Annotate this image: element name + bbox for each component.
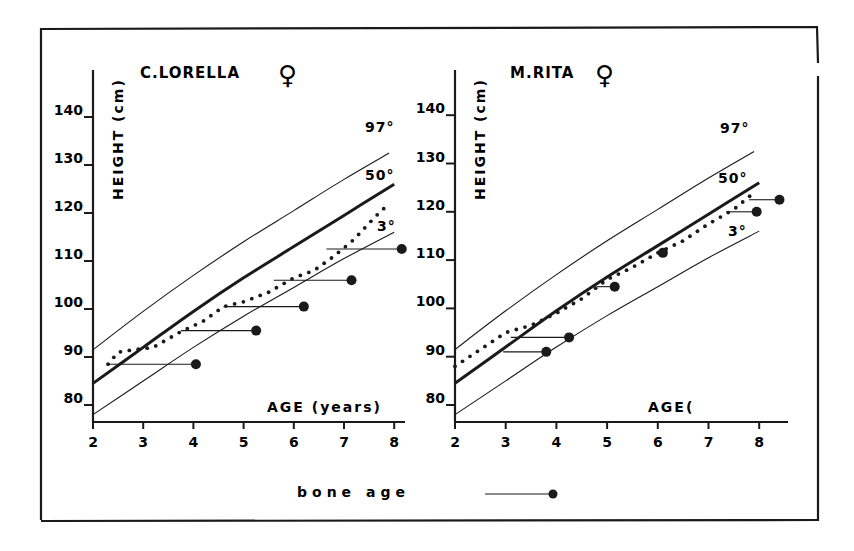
patient-height-dot	[711, 220, 715, 224]
bone-age-dot-icon	[251, 326, 261, 336]
patient-height-dot	[194, 323, 198, 327]
patient-height-dot	[330, 256, 334, 260]
chart-title: M.RITA	[510, 64, 574, 82]
y-tick-label: 80	[426, 390, 446, 406]
x-tick-label: 4	[552, 434, 562, 450]
patient-height-dot	[748, 194, 752, 198]
bone-age-marker	[108, 359, 201, 369]
patient-height-dot	[506, 330, 510, 334]
y-tick-label: 120	[416, 197, 445, 213]
patient-height-dot	[267, 290, 271, 294]
plot-area: 8090100110120130140234567897°50°3°	[54, 70, 407, 450]
x-tick-label: 8	[389, 434, 399, 450]
patient-height-dot	[307, 271, 311, 275]
bone-age-marker	[726, 207, 761, 217]
patient-height-dot	[154, 344, 158, 348]
patient-height-dot	[202, 319, 206, 323]
patient-height-dot	[491, 339, 495, 343]
patient-height-dot	[337, 251, 341, 255]
x-tick-label: 6	[289, 434, 299, 450]
3rd-percentile-curve	[455, 231, 759, 415]
patient-height-dot	[648, 255, 652, 259]
patient-height-dot	[375, 213, 379, 217]
x-axis-label: AGE(	[648, 399, 694, 415]
y-tick-label: 90	[64, 342, 84, 358]
x-axis-label: AGE (years)	[267, 399, 382, 415]
patient-height-dot	[556, 311, 560, 315]
percentile-label: 50°	[718, 170, 747, 186]
patient-height-dot	[523, 325, 527, 329]
patient-height-dot	[572, 302, 576, 306]
patient-height-dot	[298, 274, 302, 278]
legend-label-bone-age: bone age	[297, 484, 410, 500]
patient-height-dot	[453, 364, 457, 368]
patient-height-dot	[594, 286, 598, 290]
patient-height-dot	[250, 297, 254, 301]
patient-height-dot	[136, 347, 140, 351]
chart-title: C.LORELLA	[140, 64, 240, 82]
patient-height-dot	[587, 292, 591, 296]
bone-age-marker	[181, 326, 261, 336]
50th-percentile-curve	[455, 183, 759, 383]
patient-height-dot	[548, 315, 552, 319]
patient-height-dot	[343, 245, 347, 249]
patient-height-dot	[483, 344, 487, 348]
patient-height-dot	[112, 355, 116, 359]
patient-height-dot	[719, 215, 723, 219]
bone-age-dot-icon	[347, 275, 357, 285]
patient-height-dot	[119, 350, 123, 354]
patient-height-dot	[363, 226, 367, 230]
patient-height-dot	[468, 354, 472, 358]
bone-age-dot-icon	[752, 207, 762, 217]
x-tick-label: 5	[239, 434, 249, 450]
patient-height-dot	[169, 335, 173, 339]
patient-height-dot	[741, 200, 745, 204]
patient-height-dot	[476, 349, 480, 353]
97th-percentile-curve	[455, 151, 754, 349]
chart-panel-right: M.RITA ♀ HEIGHT (cm) AGE( 80901001101201…	[416, 60, 788, 450]
bone-age-dot-icon	[610, 282, 620, 292]
bone-age-dot-icon	[658, 248, 668, 258]
y-tick-label: 140	[416, 100, 445, 116]
y-tick-label: 90	[426, 342, 446, 358]
percentile-label: 3°	[728, 223, 747, 239]
x-tick-label: 2	[450, 434, 460, 450]
patient-height-dot	[703, 224, 707, 228]
patient-height-dot	[145, 346, 149, 350]
x-tick-label: 3	[501, 434, 511, 450]
bone-age-dot-icon	[564, 332, 574, 342]
patient-height-dot	[275, 286, 279, 290]
patient-height-dot	[564, 306, 568, 310]
patient-height-dot	[608, 276, 612, 280]
x-tick-label: 8	[754, 434, 764, 450]
figure-canvas: C.LORELLA ♀ HEIGHT (cm) AGE (years) 8090…	[0, 0, 854, 551]
bone-age-dot-icon	[397, 244, 407, 254]
y-axis-label: HEIGHT (cm)	[110, 78, 126, 200]
patient-height-dot	[579, 297, 583, 301]
3rd-percentile-curve	[93, 232, 394, 414]
x-tick-label: 4	[189, 434, 199, 450]
y-tick-label: 110	[416, 245, 445, 261]
y-tick-label: 80	[64, 390, 84, 406]
patient-height-dot	[601, 281, 605, 285]
patient-height-dot	[162, 340, 166, 344]
y-tick-label: 110	[54, 246, 83, 262]
x-tick-label: 6	[653, 434, 663, 450]
percentile-label: 3°	[377, 218, 396, 234]
patient-height-dot	[233, 302, 237, 306]
x-tick-label: 7	[704, 434, 714, 450]
patient-height-dot	[369, 219, 373, 223]
y-tick-label: 100	[54, 294, 83, 310]
percentile-label: 97°	[720, 120, 749, 136]
x-tick-label: 7	[339, 434, 349, 450]
patient-height-dot	[514, 328, 518, 332]
y-tick-label: 130	[416, 149, 445, 165]
patient-height-dot	[216, 309, 220, 313]
chart-panel-left: C.LORELLA ♀ HEIGHT (cm) AGE (years) 8090…	[54, 60, 407, 450]
bone-age-marker	[274, 275, 357, 285]
patient-height-dot	[224, 304, 228, 308]
percentile-label: 50°	[365, 167, 394, 183]
bone-age-dot-icon	[299, 302, 309, 312]
patient-height-dot	[209, 314, 213, 318]
y-tick-label: 100	[416, 293, 445, 309]
